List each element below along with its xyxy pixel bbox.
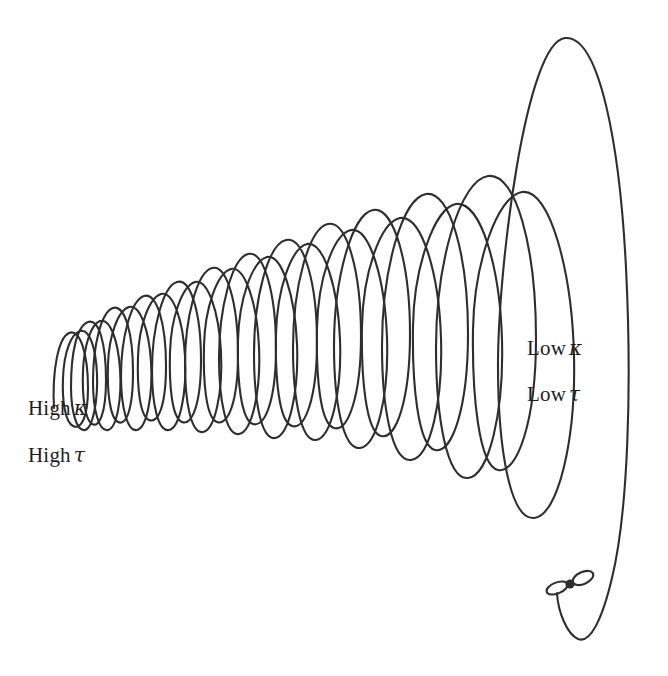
tau-symbol-icon: τ — [71, 443, 85, 467]
label-high-torsion: Highτ — [28, 445, 85, 466]
label-low-curvature: Lowκ — [527, 338, 582, 359]
kappa-symbol-icon: κ — [566, 336, 582, 360]
label-low-torsion: Lowτ — [527, 384, 580, 405]
helix-center-dot — [565, 579, 574, 588]
label-high-kappa-text: High — [28, 396, 71, 420]
tau-symbol-icon: τ — [566, 382, 580, 406]
label-low-kappa-text: Low — [527, 336, 566, 360]
label-low-tau-text: Low — [527, 382, 566, 406]
label-high-curvature: Highκ — [28, 398, 87, 419]
helix-figure: Highκ Highτ Lowκ Lowτ — [0, 0, 668, 676]
kappa-symbol-icon: κ — [71, 396, 87, 420]
label-high-tau-text: High — [28, 443, 71, 467]
